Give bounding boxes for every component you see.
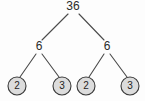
edge-right-six-to-three bbox=[110, 54, 127, 77]
leaf-node-3: 2 bbox=[77, 77, 95, 95]
tree-canvas: 36 6 6 2 3 2 3 bbox=[0, 0, 145, 101]
left-factor-label: 6 bbox=[36, 39, 43, 53]
tree-level2-nodes: 6 6 bbox=[36, 39, 111, 53]
edge-left-six-to-two bbox=[20, 54, 36, 77]
right-factor-label: 6 bbox=[104, 39, 111, 53]
leaf-node-4: 3 bbox=[121, 77, 139, 95]
leaf-node-1: 2 bbox=[8, 77, 26, 95]
edge-right-six-to-two bbox=[89, 54, 104, 77]
root-value-label: 36 bbox=[66, 0, 80, 13]
edge-root-to-left-six bbox=[42, 14, 68, 40]
prime-value-label-2: 3 bbox=[59, 80, 65, 91]
tree-root-node: 36 bbox=[66, 0, 80, 13]
tree-leaf-nodes: 2 3 2 3 bbox=[8, 77, 139, 95]
prime-value-label-3: 2 bbox=[83, 80, 89, 91]
leaf-node-2: 3 bbox=[53, 77, 71, 95]
edge-root-to-right-six bbox=[79, 14, 104, 40]
factor-tree-diagram: 36 6 6 2 3 2 3 bbox=[0, 0, 145, 101]
prime-value-label-1: 2 bbox=[14, 80, 20, 91]
edge-left-six-to-three bbox=[42, 54, 59, 77]
prime-value-label-4: 3 bbox=[127, 80, 133, 91]
